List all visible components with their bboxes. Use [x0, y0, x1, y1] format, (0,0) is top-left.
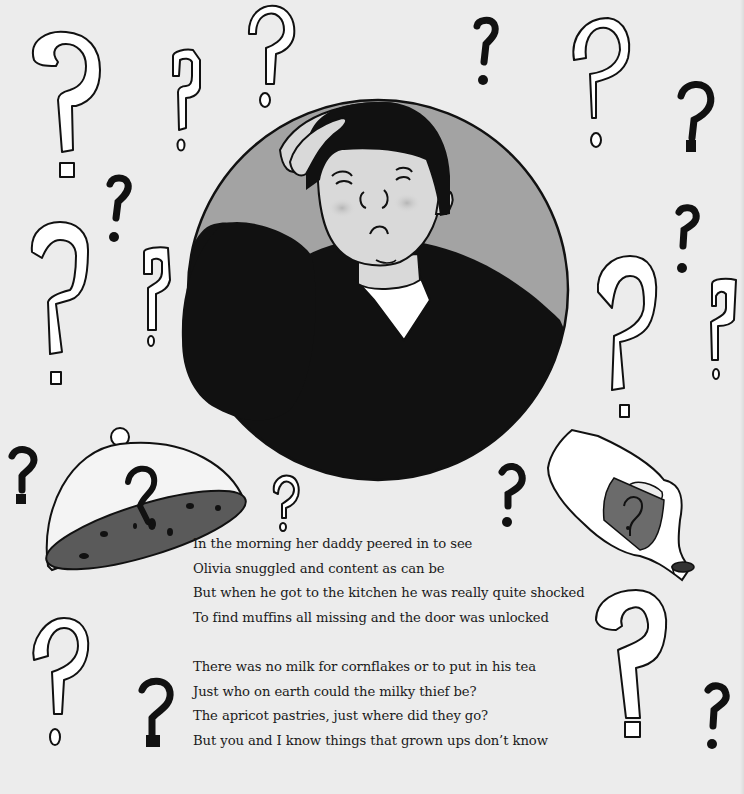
bottle-cap [672, 562, 694, 572]
verse-line: In the morning her daddy peered in to se… [193, 532, 573, 557]
verse-line: But you and I know things that grown ups… [193, 729, 573, 754]
book-page: In the morning her daddy peered in to se… [0, 0, 744, 794]
verse-stanza-1: In the morning her daddy peered in to se… [193, 532, 573, 631]
jacket-sleeve [182, 222, 316, 420]
verse-line: Just who on earth could the milky thief … [193, 680, 573, 705]
verse-line: Olivia snuggled and content as can be [193, 557, 573, 582]
verse-line: There was no milk for cornflakes or to p… [193, 655, 573, 680]
verse-stanza-2: There was no milk for cornflakes or to p… [193, 655, 573, 754]
verse-line: The apricot pastries, just where did the… [193, 704, 573, 729]
verse-line: But when he got to the kitchen he was re… [193, 581, 573, 606]
verse-line: To find muffins all missing and the door… [193, 606, 573, 631]
